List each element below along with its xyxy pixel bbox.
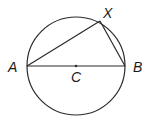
chord-xb xyxy=(100,21,125,66)
label-x: X xyxy=(102,5,113,21)
center-point xyxy=(75,65,77,67)
circle-diagram: A B C X xyxy=(0,0,152,121)
label-a: A xyxy=(7,59,17,75)
label-b: B xyxy=(133,59,142,75)
label-c: C xyxy=(71,69,82,85)
chord-ax xyxy=(27,21,100,66)
